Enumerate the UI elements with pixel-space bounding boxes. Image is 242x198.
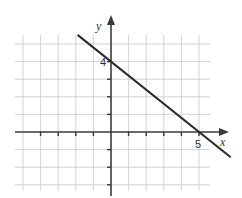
y-tick-label: 4 xyxy=(100,56,106,68)
y-axis-label: y xyxy=(95,19,102,33)
tick-labels: 45 xyxy=(100,56,201,150)
series-line xyxy=(78,35,231,157)
axis-ticks xyxy=(41,62,199,185)
series xyxy=(78,35,231,157)
grid xyxy=(15,35,210,191)
y-axis-arrow-icon xyxy=(107,15,115,25)
x-tick-label: 5 xyxy=(195,138,201,150)
coordinate-graph: x y 45 xyxy=(0,0,242,198)
axes xyxy=(15,15,229,196)
x-axis-label: x xyxy=(219,135,226,149)
